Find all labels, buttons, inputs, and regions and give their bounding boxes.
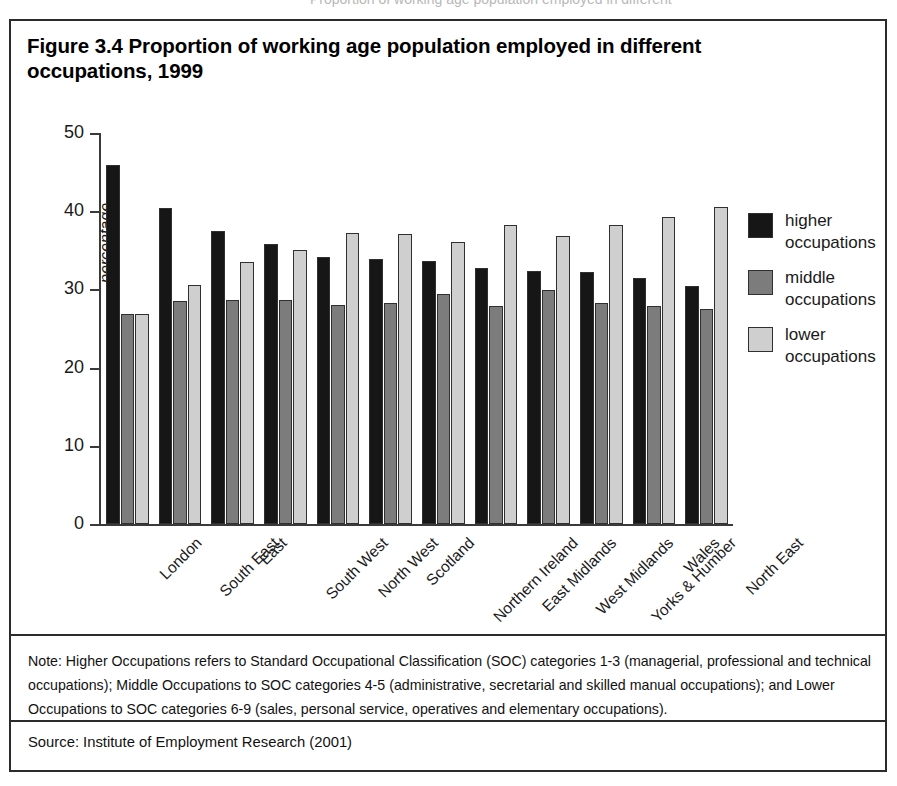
bar-lower — [398, 234, 412, 524]
bar-higher — [264, 244, 278, 524]
bar-lower — [188, 285, 202, 524]
y-tick-label-40: 40 — [64, 200, 84, 221]
bar-lower — [556, 236, 570, 524]
bar-group-london — [101, 133, 154, 524]
bar-groups — [101, 133, 733, 524]
x-axis-labels: LondonSouth EastEastSouth WestNorth West… — [99, 530, 739, 640]
legend-label-middle-line2: occupations — [785, 290, 876, 309]
bar-lower — [662, 217, 676, 524]
bar-group-scotland — [364, 133, 417, 524]
note-divider-top — [11, 634, 885, 636]
legend-label-lower: lower occupations — [785, 324, 885, 368]
plot-region: percentage 01020304050 — [99, 133, 733, 526]
legend-label-lower-line2: occupations — [785, 347, 876, 366]
y-tick-10: 10 — [90, 446, 99, 448]
figure-source: Source: Institute of Employment Research… — [28, 734, 352, 750]
bar-higher — [317, 257, 331, 524]
y-tick-label-10: 10 — [64, 435, 84, 456]
bar-middle — [121, 314, 135, 524]
bar-group-east-midlands — [470, 133, 523, 524]
bar-middle — [437, 294, 451, 524]
bar-group-yorks-humber — [575, 133, 628, 524]
bar-middle — [384, 303, 398, 524]
bar-higher — [211, 231, 225, 524]
legend-item-higher: higher occupations — [748, 211, 883, 268]
y-tick-0: 0 — [90, 524, 99, 526]
bar-lower — [240, 262, 254, 524]
chart-area: percentage 01020304050 LondonSouth EastE… — [25, 106, 875, 636]
note-divider-bottom — [11, 720, 885, 722]
bar-lower — [293, 250, 307, 524]
bar-middle — [595, 303, 609, 524]
bar-lower — [714, 207, 728, 524]
top-partial-label: Proportion of working age population emp… — [310, 0, 672, 7]
y-tick-50: 50 — [90, 133, 99, 135]
y-tick-20: 20 — [90, 368, 99, 370]
x-axis-line — [99, 524, 733, 526]
bar-lower — [346, 233, 360, 524]
bar-middle — [647, 306, 661, 524]
bar-higher — [527, 271, 541, 524]
bar-middle — [173, 301, 187, 524]
bar-higher — [633, 278, 647, 524]
figure-note: Note: Higher Occupations refers to Stand… — [28, 649, 874, 721]
page-top-partial-text: Proportion of working age population emp… — [0, 0, 897, 14]
figure-container: Figure 3.4 Proportion of working age pop… — [9, 19, 887, 772]
chart-legend: higher occupations middle occupations lo… — [748, 211, 883, 382]
bar-group-north-east — [680, 133, 733, 524]
bar-middle — [489, 306, 503, 524]
bar-higher — [580, 272, 594, 524]
legend-label-higher-line2: occupations — [785, 233, 876, 252]
y-tick-label-20: 20 — [64, 357, 84, 378]
legend-label-middle: middle occupations — [785, 267, 885, 311]
bar-lower — [609, 225, 623, 525]
legend-item-middle: middle occupations — [748, 268, 883, 325]
bar-group-east — [206, 133, 259, 524]
bar-lower — [135, 314, 149, 524]
bar-lower — [451, 242, 465, 524]
bar-higher — [159, 208, 173, 524]
bar-higher — [475, 268, 489, 524]
y-tick-30: 30 — [90, 289, 99, 291]
legend-swatch-middle — [748, 270, 773, 295]
y-tick-label-30: 30 — [64, 278, 84, 299]
x-label-london: London — [156, 534, 205, 583]
legend-item-lower: lower occupations — [748, 325, 883, 382]
bar-group-north-west — [312, 133, 365, 524]
y-tick-label-0: 0 — [74, 513, 84, 534]
y-tick-40: 40 — [90, 211, 99, 213]
bar-group-south-west — [259, 133, 312, 524]
bar-middle — [700, 309, 714, 524]
figure-title: Figure 3.4 Proportion of working age pop… — [27, 33, 727, 83]
bar-group-south-east — [154, 133, 207, 524]
bar-higher — [369, 259, 383, 524]
bar-middle — [331, 305, 345, 524]
legend-label-higher-line1: higher — [785, 211, 832, 230]
bar-higher — [422, 261, 436, 524]
bar-middle — [279, 300, 293, 524]
legend-swatch-higher — [748, 213, 773, 238]
bar-middle — [226, 300, 240, 524]
bar-group-northern-ireland — [417, 133, 470, 524]
bar-group-west-midlands — [522, 133, 575, 524]
bar-group-wales — [628, 133, 681, 524]
y-tick-label-50: 50 — [64, 122, 84, 143]
legend-label-higher: higher occupations — [785, 210, 885, 254]
bar-lower — [504, 225, 518, 525]
legend-label-middle-line1: middle — [785, 268, 835, 287]
bar-middle — [542, 290, 556, 524]
legend-label-lower-line1: lower — [785, 325, 826, 344]
bar-higher — [106, 165, 120, 524]
bar-higher — [685, 286, 699, 524]
legend-swatch-lower — [748, 327, 773, 352]
x-label-north-east: North East — [742, 534, 807, 599]
